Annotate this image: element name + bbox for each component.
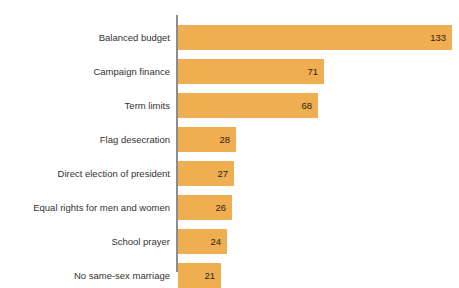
bar-category-label: School prayer <box>111 229 170 254</box>
bar-row: No same-sex marriage21 <box>0 263 459 288</box>
bar-row: Flag desecration28 <box>0 127 459 152</box>
bar-fill[interactable] <box>178 25 452 50</box>
bar-value-label: 27 <box>217 161 228 186</box>
bar-track: 71 <box>178 59 324 84</box>
bar-track: 26 <box>178 195 232 220</box>
bar-track: 21 <box>178 263 221 288</box>
bar-category-label: Equal rights for men and women <box>33 195 170 220</box>
bar-row: Balanced budget133 <box>0 25 459 50</box>
bar-track: 68 <box>178 93 318 118</box>
bar-value-label: 21 <box>204 263 215 288</box>
bar-row: Term limits68 <box>0 93 459 118</box>
bar-value-label: 24 <box>210 229 221 254</box>
bar-category-label: Term limits <box>125 93 170 118</box>
bar-track: 28 <box>178 127 236 152</box>
bar-category-label: No same-sex marriage <box>74 263 170 288</box>
bar-category-label: Flag desecration <box>100 127 170 152</box>
bar-value-label: 71 <box>307 59 318 84</box>
bar-row: Direct election of president27 <box>0 161 459 186</box>
bar-track: 24 <box>178 229 227 254</box>
bar-row: Equal rights for men and women26 <box>0 195 459 220</box>
bar-value-label: 68 <box>301 93 312 118</box>
bar-fill[interactable] <box>178 59 324 84</box>
bar-track: 133 <box>178 25 452 50</box>
bar-category-label: Balanced budget <box>99 25 170 50</box>
bar-category-label: Campaign finance <box>93 59 170 84</box>
bar-track: 27 <box>178 161 234 186</box>
bar-row: School prayer24 <box>0 229 459 254</box>
bar-category-label: Direct election of president <box>58 161 170 186</box>
bar-value-label: 133 <box>430 25 446 50</box>
bar-value-label: 28 <box>219 127 230 152</box>
bar-fill[interactable] <box>178 93 318 118</box>
bar-value-label: 26 <box>215 195 226 220</box>
bar-row: Campaign finance71 <box>0 59 459 84</box>
